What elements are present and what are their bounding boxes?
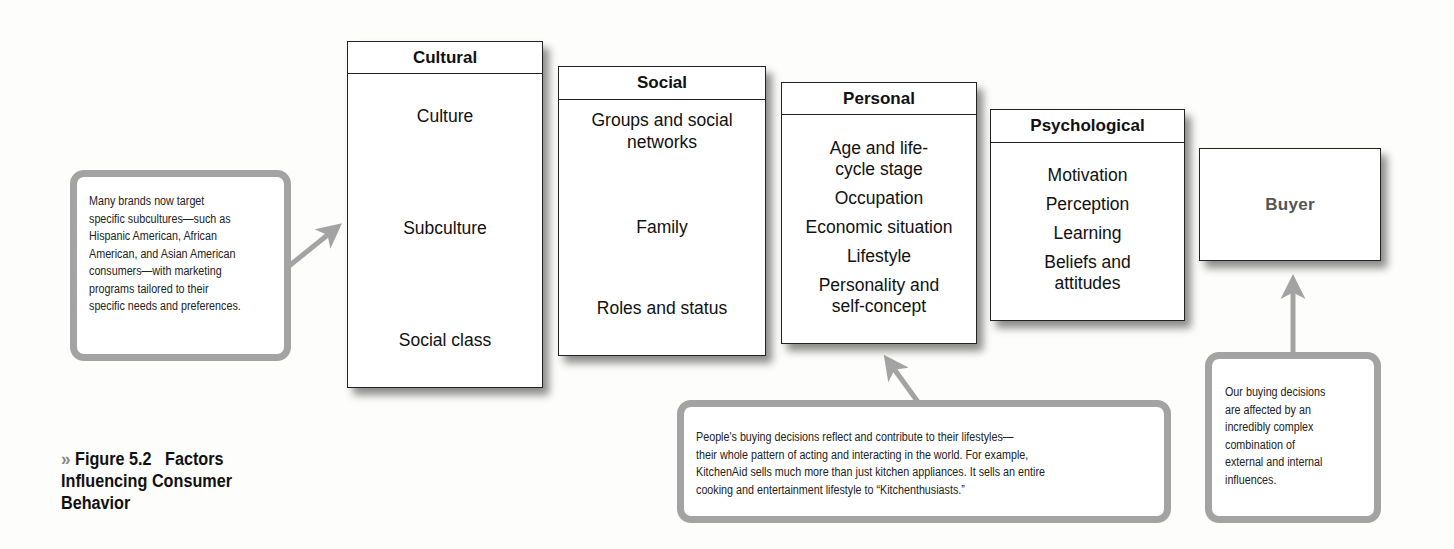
- factor-item: Economic situation: [782, 217, 976, 238]
- callout-line: specific needs and preferences.: [89, 298, 241, 316]
- callout-line: are affected by an: [1225, 402, 1325, 420]
- figure-number: Figure 5.2: [75, 449, 152, 469]
- callout-line: Many brands now target: [89, 193, 241, 211]
- figure-title-line3: Behavior: [61, 492, 232, 514]
- callout-line: programs tailored to their: [89, 281, 241, 299]
- factor-item: Culture: [348, 106, 542, 127]
- factor-item: self-concept: [782, 296, 976, 317]
- factor-title-cultural: Cultural: [348, 42, 542, 74]
- factor-title-psychological: Psychological: [991, 110, 1184, 143]
- figure-caption: »Figure 5.2 Factors Influencing Consumer…: [61, 448, 232, 514]
- callout-line: incredibly complex: [1225, 419, 1325, 437]
- factor-item: Beliefs and: [991, 252, 1184, 273]
- factor-item: Roles and status: [559, 298, 765, 319]
- callout-line: their whole pattern of acting and intera…: [696, 447, 1045, 465]
- arrow-cultural-icon: [289, 229, 335, 266]
- factor-title-social: Social: [559, 67, 765, 100]
- factor-item: Subculture: [348, 218, 542, 239]
- buyer-box: Buyer: [1199, 148, 1381, 261]
- callout-line: Hispanic American, African: [89, 228, 241, 246]
- factor-box-social: Social Groups and social networks Family…: [558, 66, 766, 356]
- callout-line: People's buying decisions reflect and co…: [696, 429, 1045, 447]
- factor-box-cultural: Cultural Culture Subculture Social class: [347, 41, 543, 388]
- factor-box-psychological: Psychological Motivation Perception Lear…: [990, 109, 1185, 321]
- callout-personal: People's buying decisions reflect and co…: [677, 400, 1171, 523]
- callout-line: specific subcultures—such as: [89, 211, 241, 229]
- buyer-label: Buyer: [1265, 195, 1315, 215]
- factor-item: Age and life-: [782, 138, 976, 159]
- callout-line: influences.: [1225, 472, 1325, 490]
- callout-line: consumers—with marketing: [89, 263, 241, 281]
- callout-line: Our buying decisions: [1225, 384, 1325, 402]
- factor-item: attitudes: [991, 273, 1184, 294]
- arrow-personal-icon: [889, 362, 918, 402]
- factor-item: Social class: [348, 330, 542, 351]
- factor-item: Lifestyle: [782, 246, 976, 267]
- callout-line: combination of: [1225, 437, 1325, 455]
- callout-buyer: Our buying decisions are affected by an …: [1205, 352, 1381, 523]
- callout-line: cooking and entertainment lifestyle to “…: [696, 482, 1045, 500]
- callout-cultural: Many brands now target specific subcultu…: [70, 170, 291, 361]
- factor-item: cycle stage: [782, 159, 976, 180]
- callout-line: KitchenAid sells much more than just kit…: [696, 464, 1045, 482]
- factor-box-personal: Personal Age and life- cycle stage Occup…: [781, 82, 977, 344]
- factor-item: networks: [559, 132, 765, 153]
- figure-title-line2: Influencing Consumer: [61, 470, 232, 492]
- factor-title-personal: Personal: [782, 83, 976, 115]
- figure-title-line1: Factors: [165, 449, 224, 469]
- callout-line: American, and Asian American: [89, 246, 241, 264]
- factor-item: Learning: [991, 223, 1184, 244]
- factor-item: Family: [559, 217, 765, 238]
- factor-item: Groups and social: [559, 110, 765, 131]
- callout-line: external and internal: [1225, 454, 1325, 472]
- factor-item: Motivation: [991, 165, 1184, 186]
- factor-item: Perception: [991, 194, 1184, 215]
- double-chevron-right-icon: »: [61, 448, 68, 469]
- factor-item: Personality and: [782, 275, 976, 296]
- factor-item: Occupation: [782, 188, 976, 209]
